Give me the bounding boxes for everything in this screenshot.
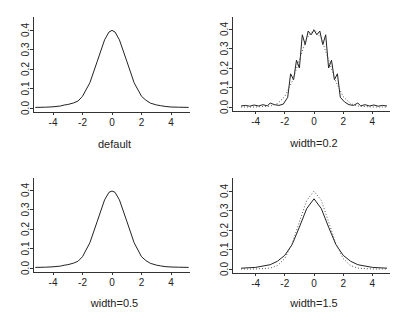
y-tick-label: 0.1 (219, 80, 230, 94)
density-curve (35, 30, 188, 107)
x-tick-label: -4 (49, 117, 58, 128)
y-tick-label: 0.1 (20, 81, 31, 95)
x-tick-label: 4 (168, 277, 174, 288)
y-tick-label: 0.1 (219, 242, 230, 256)
density-curve (241, 199, 387, 268)
x-tick-label: 0 (109, 117, 115, 128)
panel-width-0-2: 0.00.10.20.30.4-4-2024width=0.2 (219, 17, 391, 149)
y-tick-label: 0.3 (20, 202, 31, 216)
x-tick-label: 4 (370, 278, 376, 289)
y-tick-label: 0.2 (20, 222, 31, 236)
x-tick-label: 2 (139, 277, 145, 288)
y-tick-label: 0.0 (20, 261, 31, 275)
panel-default: 0.00.10.20.30.4-4-2024default (20, 17, 191, 150)
x-tick-label: 0 (109, 277, 115, 288)
x-tick-label: -2 (280, 116, 289, 127)
x-tick-label: 4 (168, 117, 174, 128)
x-tick-label: -4 (251, 116, 260, 127)
x-tick-label: 2 (340, 278, 346, 289)
y-tick-label: 0.0 (219, 100, 230, 114)
y-tick-label: 0.2 (20, 62, 31, 76)
x-tick-label: 0 (311, 116, 317, 127)
x-tick-label: -2 (78, 277, 87, 288)
density-curve (35, 191, 188, 267)
reference-curve (241, 29, 387, 107)
x-tick-label: 2 (340, 116, 346, 127)
x-axis-label: width=0.5 (90, 297, 138, 309)
x-axis-label: width=0.2 (289, 137, 337, 149)
y-tick-label: 0.4 (219, 184, 230, 198)
y-tick-label: 0.0 (219, 262, 230, 276)
x-tick-label: 4 (370, 116, 376, 127)
y-tick-label: 0.4 (219, 22, 230, 36)
y-tick-label: 0.3 (219, 41, 230, 55)
y-tick-label: 0.1 (20, 241, 31, 255)
panel-width-1-5: 0.00.10.20.30.4-4-2024width=1.5 (219, 178, 391, 309)
y-tick-label: 0.3 (20, 42, 31, 56)
y-tick-label: 0.4 (20, 23, 31, 37)
y-tick-label: 0.4 (20, 183, 31, 197)
x-tick-label: 2 (139, 117, 145, 128)
reference-curve (241, 191, 387, 269)
figure: 0.00.10.20.30.4-4-2024default 0.00.10.20… (0, 0, 413, 328)
x-tick-label: -4 (251, 278, 260, 289)
x-axis-label: width=1.5 (289, 297, 337, 309)
panel-width-0-5: 0.00.10.20.30.4-4-2024width=0.5 (20, 178, 191, 309)
x-tick-label: -2 (280, 278, 289, 289)
y-tick-label: 0.0 (20, 101, 31, 115)
x-tick-label: 0 (311, 278, 317, 289)
y-tick-label: 0.2 (219, 61, 230, 75)
x-tick-label: -2 (78, 117, 87, 128)
x-axis-label: default (98, 138, 131, 150)
x-tick-label: -4 (49, 277, 58, 288)
y-tick-label: 0.2 (219, 223, 230, 237)
y-tick-label: 0.3 (219, 203, 230, 217)
density-curve (241, 30, 387, 106)
